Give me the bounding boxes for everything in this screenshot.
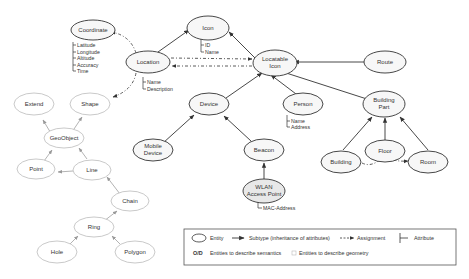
edge-room-buildingpart (400, 117, 428, 150)
entity-diagram: Coordinate Location Icon Locatable Icon … (0, 0, 469, 279)
label-person: Person (293, 101, 312, 107)
label-icon: Icon (202, 25, 213, 31)
attr-location-name: Name (147, 79, 161, 85)
legend-assignment: Assignment (357, 235, 386, 241)
label-location: Location (137, 59, 160, 65)
attr-location-description: Description (147, 86, 173, 92)
coordinate-attr-bracket (73, 42, 76, 71)
legend-geometry-icon (292, 251, 296, 255)
edge-beacon-device (224, 116, 251, 141)
label-floor: Floor (378, 148, 392, 154)
label-building-part-2: Part (378, 104, 389, 110)
label-chain: Chain (122, 198, 138, 204)
edge-polygon-ring (112, 236, 120, 244)
legend-semantics-icon: O/D (193, 250, 203, 256)
legend-geometry: Entities to describe geometry (299, 250, 369, 256)
label-mobile-1: Mobile (144, 143, 162, 149)
attr-icon-name: Name (205, 49, 219, 55)
icon-attr-bracket (201, 39, 204, 52)
edge-line-point (58, 171, 73, 172)
label-locatable-2: Icon (269, 63, 280, 69)
edge-hole-ring (70, 236, 78, 244)
attr-icon-id: ID (205, 42, 210, 48)
edge-point-geoobject (44, 150, 52, 161)
edge-location-icon (158, 30, 189, 52)
legend-subtype: Subtype (inheritance of attributes) (249, 235, 330, 241)
label-route: Route (377, 59, 394, 65)
legend-entity-icon (192, 234, 206, 242)
label-extend: Extend (25, 101, 44, 107)
label-ring: Ring (88, 224, 100, 230)
label-beacon: Beacon (254, 147, 274, 153)
person-attr-bracket (287, 115, 290, 127)
label-room: Room (420, 159, 436, 165)
legend: Entity Subtype (inheritance of attribute… (184, 229, 456, 265)
label-locatable-1: Locatable (262, 56, 289, 62)
label-shape: Shape (81, 101, 99, 107)
label-polygon: Polygon (124, 249, 146, 255)
edge-location-coordinate-assign (111, 32, 136, 53)
edge-device-locatable (226, 73, 262, 98)
edge-mobile-device (163, 115, 194, 143)
edge-chain-line (107, 177, 120, 194)
legend-entity: Entity (210, 235, 224, 241)
label-line: Line (86, 167, 98, 173)
attr-time: Time (77, 68, 88, 74)
label-hole: Hole (51, 249, 64, 255)
label-wlan-2: Access Point (247, 191, 282, 197)
label-geoobject: GeoObject (50, 135, 79, 141)
edge-location-locatable-assign (171, 58, 252, 59)
attr-person-address: Address (291, 124, 310, 130)
label-building: Building (330, 159, 351, 165)
label-coordinate: Coordinate (78, 27, 108, 33)
edge-line-geoobject (79, 148, 87, 159)
legend-semantics: Entities to describe semantics (210, 250, 282, 256)
label-wlan-1: WLAN (255, 184, 272, 190)
legend-attribute: Attribute (414, 235, 434, 241)
attr-latitude: Latitude (77, 42, 96, 48)
edge-location-shape-assign (113, 73, 136, 97)
location-attr-bracket (143, 77, 146, 89)
attr-mac-address: MAC-Address (263, 205, 296, 211)
edge-locatable-icon (229, 32, 256, 59)
attr-altitude: Altitude (77, 55, 94, 61)
label-device: Device (200, 101, 219, 107)
label-mobile-2: Device (144, 150, 163, 156)
label-point: Point (29, 166, 43, 172)
label-building-part-1: Building (373, 97, 394, 103)
